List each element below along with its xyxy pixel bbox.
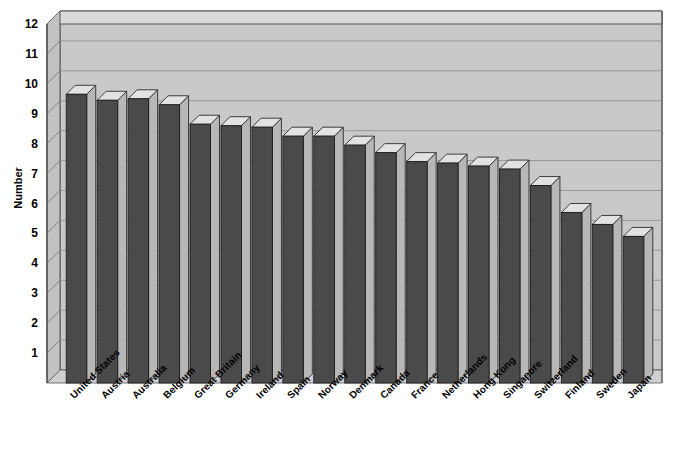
bar [345,136,375,383]
y-tick-label: 11 [14,48,38,60]
y-tick-label: 4 [14,257,38,269]
bar [592,215,622,383]
bar [314,127,344,383]
bar-chart: Number 123456789101112 United StatesAust… [0,0,676,456]
bar [469,157,499,383]
bar [190,115,220,383]
y-tick-label: 8 [14,138,38,150]
y-tick-label: 10 [14,78,38,90]
bar [623,227,653,383]
y-tick-label: 1 [14,347,38,359]
bar [97,91,127,383]
bar [221,117,251,383]
bar [283,127,313,383]
bar [530,177,560,383]
bar [499,160,528,383]
bar [252,118,282,383]
bar [159,96,189,383]
y-tick-label: 5 [14,227,38,239]
bar [438,154,468,383]
y-tick-label: 12 [14,18,38,30]
bar [407,153,437,383]
bar [128,90,158,383]
bar [376,144,406,383]
y-tick-label: 6 [14,198,38,210]
bar [66,85,96,383]
y-tick-label: 7 [14,168,38,180]
y-tick-label: 3 [14,287,38,299]
y-tick-label: 9 [14,108,38,120]
y-tick-label: 2 [14,317,38,329]
